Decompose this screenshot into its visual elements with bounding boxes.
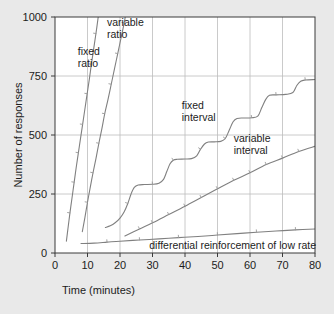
y-tick-label: 500: [29, 129, 47, 141]
reinforcement-hatch-mark: [102, 113, 105, 114]
series-label-fixed-ratio: fixedratio: [78, 45, 100, 69]
x-tick-label: 60: [244, 259, 256, 271]
series-label-variable-interval: variableinterval: [234, 132, 271, 156]
x-tick-label: 10: [81, 259, 93, 271]
y-axis-title: Number of responses: [12, 82, 24, 188]
x-axis-tick-labels: 01020304050607080: [52, 259, 321, 271]
x-tick-label: 50: [211, 259, 223, 271]
x-tick-label: 40: [179, 259, 191, 271]
reinforcement-hatch-mark: [90, 172, 93, 173]
cumulative-response-chart: 01020304050607080 02505007501000 Time (m…: [0, 0, 334, 314]
reinforcement-hatch-mark: [96, 143, 99, 144]
y-tick-label: 750: [29, 70, 47, 82]
x-tick-label: 30: [146, 259, 158, 271]
figure-container: 01020304050607080 02505007501000 Time (m…: [0, 0, 334, 314]
x-tick-label: 80: [309, 259, 321, 271]
y-tick-label: 250: [29, 188, 47, 200]
x-tick-label: 70: [276, 259, 288, 271]
x-tick-label: 20: [114, 259, 126, 271]
series-label-differential-reinforcement-of-low-rate: differential reinforcement of low rate: [149, 239, 316, 251]
reinforcement-hatch-mark: [85, 202, 88, 203]
y-tick-label: 1000: [23, 11, 47, 23]
x-tick-label: 0: [52, 259, 58, 271]
y-tick-label: 0: [41, 247, 47, 259]
x-axis-title: Time (minutes): [62, 284, 135, 296]
